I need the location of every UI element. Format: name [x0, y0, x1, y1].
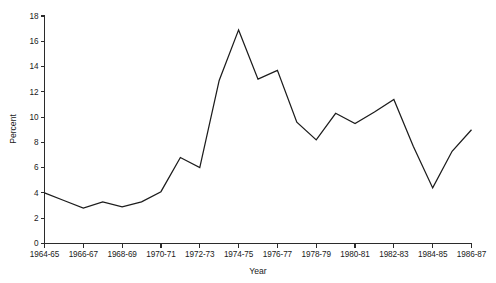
- y-tick-label: 12: [29, 88, 39, 97]
- x-tick-label: 1970-71: [146, 250, 176, 259]
- y-tick-label: 4: [34, 189, 39, 198]
- y-tick-label: 0: [34, 239, 39, 248]
- x-tick-label: 1964-65: [30, 250, 60, 259]
- x-tick-label: 1984-85: [418, 250, 448, 259]
- y-axis: 024681012141618: [29, 12, 44, 249]
- x-tick-label: 1982-83: [379, 250, 409, 259]
- y-tick-label: 18: [29, 12, 39, 21]
- x-axis: 1964-651966-671968-691970-711972-731974-…: [30, 244, 487, 259]
- x-tick-label: 1972-73: [185, 250, 215, 259]
- y-tick-label: 6: [34, 163, 39, 172]
- x-tick-label: 1966-67: [69, 250, 99, 259]
- x-tick-label: 1974-75: [224, 250, 254, 259]
- chart-container: 024681012141618 1964-651966-671968-69197…: [0, 0, 496, 283]
- x-tick-label: 1968-69: [107, 250, 137, 259]
- x-tick-label: 1980-81: [340, 250, 370, 259]
- data-series-group: [45, 30, 472, 208]
- x-tick-label: 1976-77: [263, 250, 293, 259]
- data-line-percent: [45, 30, 472, 208]
- y-tick-label: 2: [34, 214, 39, 223]
- y-tick-label: 8: [34, 138, 39, 147]
- x-tick-label: 1986-87: [457, 250, 487, 259]
- y-axis-title: Percent: [8, 114, 18, 144]
- x-tick-label: 1978-79: [302, 250, 332, 259]
- line-chart: 024681012141618 1964-651966-671968-69197…: [0, 0, 496, 283]
- y-tick-label: 14: [29, 62, 39, 71]
- y-tick-label: 10: [29, 113, 39, 122]
- y-tick-label: 16: [29, 37, 39, 46]
- x-axis-title: Year: [249, 266, 267, 276]
